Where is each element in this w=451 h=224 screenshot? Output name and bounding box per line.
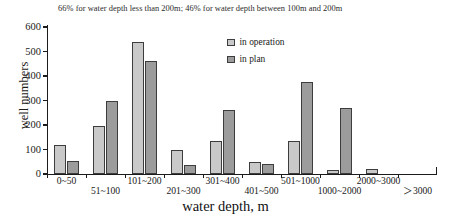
bar	[106, 101, 118, 175]
x-tick-label: 1000~2000	[318, 186, 362, 196]
y-tick	[43, 149, 47, 150]
x-tick-label: 101~200	[128, 176, 162, 186]
bar	[327, 170, 339, 174]
x-tick	[47, 174, 48, 179]
x-tick-label: 501~1000	[281, 176, 320, 186]
x-tick-label: 401~500	[245, 186, 279, 196]
bar	[93, 126, 105, 174]
y-tick-label: 300	[25, 95, 41, 106]
bar	[145, 61, 157, 174]
legend-item-in-operation[interactable]: in operation	[227, 36, 285, 49]
y-tick-label: 0	[36, 169, 41, 180]
bar	[262, 164, 274, 174]
x-tick-label: 201~300	[167, 186, 201, 196]
x-tick-label: ＞3000	[403, 186, 432, 196]
x-tick	[164, 174, 165, 179]
bar	[132, 42, 144, 174]
legend-swatch-icon	[227, 39, 235, 47]
bar	[249, 162, 261, 174]
x-tick-label: 0~50	[57, 176, 77, 186]
bar	[67, 161, 79, 174]
chart-title: 66% for water depth less than 200m; 46% …	[58, 4, 448, 14]
x-axis-title: water depth, m	[0, 198, 451, 215]
x-tick	[242, 174, 243, 179]
y-tick	[43, 124, 47, 125]
x-tick	[86, 174, 87, 179]
bar	[54, 145, 66, 174]
bar	[288, 141, 300, 174]
bar	[171, 150, 183, 175]
x-tick	[320, 174, 321, 179]
x-tick	[203, 174, 204, 179]
y-tick-label: 100	[25, 144, 41, 155]
legend-swatch-icon	[227, 56, 235, 64]
y-tick	[43, 100, 47, 101]
bar	[340, 108, 352, 174]
bar	[210, 141, 222, 174]
y-tick-label: 200	[25, 120, 41, 131]
bar	[184, 165, 196, 174]
y-tick	[43, 26, 47, 27]
bar	[366, 169, 378, 174]
x-tick-label: 301~400	[206, 176, 240, 186]
x-tick-label: 51~100	[91, 186, 120, 196]
y-tick-label: 500	[25, 46, 41, 57]
bar	[301, 82, 313, 174]
bar	[223, 110, 235, 174]
y-tick	[43, 75, 47, 76]
legend-label: in operation	[240, 38, 285, 47]
legend-label: in plan	[240, 55, 266, 64]
legend: in operation in plan	[227, 36, 285, 70]
y-tick-label: 400	[25, 71, 41, 82]
y-tick-label: 600	[25, 22, 41, 33]
bar-chart: 66% for water depth less than 200m; 46% …	[0, 0, 451, 224]
legend-item-in-plan[interactable]: in plan	[227, 53, 285, 66]
x-tick-label: 2000~3000	[357, 176, 401, 186]
x-tick	[125, 174, 126, 179]
y-tick	[43, 51, 47, 52]
